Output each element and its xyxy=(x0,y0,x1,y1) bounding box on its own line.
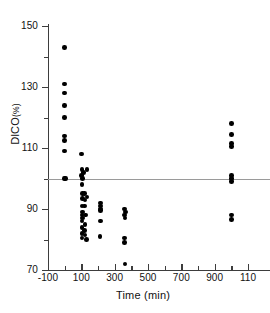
y-axis-tick-major xyxy=(42,270,48,271)
data-point xyxy=(229,121,234,126)
data-point xyxy=(62,138,67,143)
data-point xyxy=(62,91,67,96)
plot-data-area xyxy=(48,26,270,270)
x-axis-tick-label: 110 xyxy=(231,273,265,283)
data-point xyxy=(229,217,234,222)
scatter-plot-figure: 7090110130150 -100100300500700900110 DlC… xyxy=(0,0,270,313)
data-point xyxy=(123,262,128,267)
data-point xyxy=(122,240,127,245)
data-point xyxy=(79,152,84,157)
x-axis-tick-label: 900 xyxy=(198,273,232,283)
x-axis-tick-label: -100 xyxy=(31,273,65,283)
data-point xyxy=(229,132,234,137)
data-point xyxy=(123,216,128,221)
data-point xyxy=(82,228,87,233)
data-point xyxy=(62,149,67,154)
data-point xyxy=(84,237,89,242)
x-axis-tick-label: 300 xyxy=(98,273,132,283)
y-axis-tick-label: 90 xyxy=(12,204,38,214)
y-axis-tick-label: 150 xyxy=(12,21,38,31)
data-point xyxy=(81,170,86,175)
data-point xyxy=(62,115,67,120)
x-axis-tick-label: 500 xyxy=(131,273,165,283)
x-axis-tick-label: 700 xyxy=(164,273,198,283)
x-axis-title: Time (min) xyxy=(88,290,198,301)
data-point xyxy=(98,208,103,213)
y-axis-title-text: DlCO xyxy=(9,117,21,145)
data-point xyxy=(62,82,67,87)
data-point xyxy=(82,204,87,209)
x-axis-tick-label: 100 xyxy=(64,273,98,283)
data-point xyxy=(83,198,88,203)
x-axis-line xyxy=(48,270,270,271)
y-axis-title: DlCO(%) xyxy=(10,84,22,164)
y-axis-title-unit: (%) xyxy=(11,103,21,117)
data-point xyxy=(80,176,85,181)
data-point xyxy=(62,103,67,108)
data-point xyxy=(63,176,68,181)
data-point xyxy=(62,45,67,50)
data-point xyxy=(229,179,234,184)
data-point xyxy=(98,234,103,239)
data-point xyxy=(80,182,85,187)
data-point xyxy=(229,144,234,149)
data-point xyxy=(98,219,103,224)
